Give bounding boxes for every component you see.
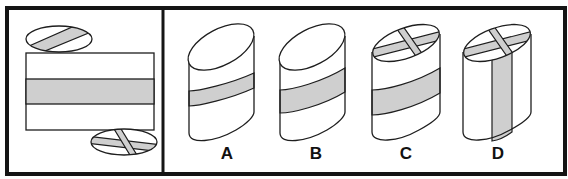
option-b-label[interactable]: B	[301, 145, 331, 163]
net-side-rectangle	[26, 53, 154, 130]
option-c-label[interactable]: C	[391, 145, 421, 163]
puzzle-figure: A B C D	[0, 0, 568, 179]
option-d-label[interactable]: D	[483, 145, 513, 163]
option-a-label[interactable]: A	[212, 145, 242, 163]
